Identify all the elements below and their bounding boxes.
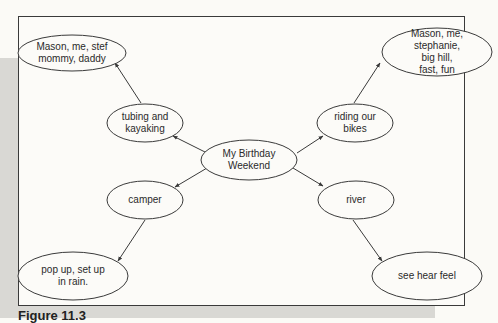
arrow-tubing-to-tubing-detail xyxy=(115,63,141,103)
arrow-center-to-bikes xyxy=(297,136,323,153)
figure-caption: Figure 11.3 xyxy=(18,309,86,323)
arrow-center-to-tubing xyxy=(173,136,207,153)
arrow-center-to-river xyxy=(293,168,323,186)
node-label-camper: camper xyxy=(128,194,161,206)
node-label-bikes: riding our bikes xyxy=(334,111,376,135)
node-label-bikes-detail: Mason, me, stephanie, big hill, fast, fu… xyxy=(407,28,468,76)
arrow-bikes-to-bikes-detail xyxy=(354,63,380,103)
arrow-center-to-camper xyxy=(175,168,207,187)
node-label-center: My Birthday Weekend xyxy=(223,148,276,172)
node-label-tubing: tubing and kayaking xyxy=(122,111,169,135)
node-label-river-detail: see hear feel xyxy=(398,270,456,282)
arrow-camper-to-camper-detail xyxy=(118,220,145,261)
node-label-camper-detail: pop up, set up in rain. xyxy=(41,264,104,288)
node-label-tubing-detail: Mason, me, stef mommy, daddy xyxy=(36,41,107,65)
arrow-river-to-river-detail xyxy=(353,220,382,261)
node-label-river: river xyxy=(346,194,365,206)
